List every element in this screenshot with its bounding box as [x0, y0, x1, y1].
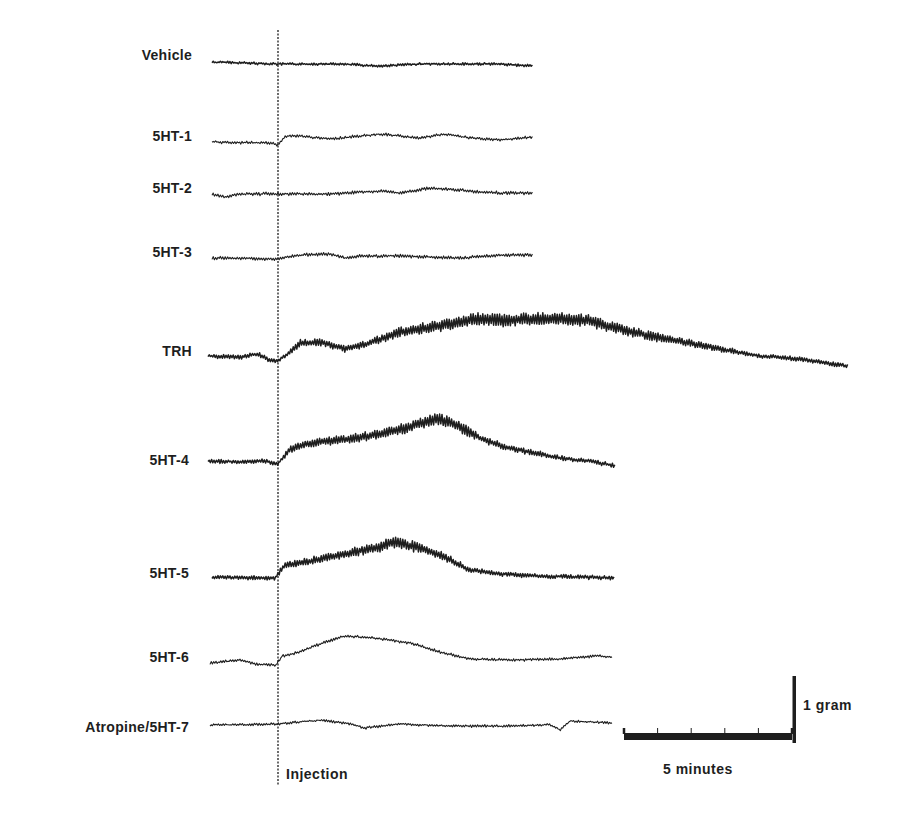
time-scale-bar [624, 733, 792, 740]
injection-label: Injection [286, 766, 348, 782]
time-scale-label: 5 minutes [663, 761, 733, 777]
trace-trh [208, 313, 848, 368]
trace-5ht-6 [210, 635, 612, 666]
trace-label: Vehicle [142, 47, 192, 63]
trace-label: 5HT-1 [152, 128, 192, 144]
trace-vehicle [212, 61, 532, 67]
force-scale-label: 1 gram [803, 697, 852, 713]
trace-5ht-4 [208, 414, 615, 467]
trace-group [208, 61, 848, 730]
trace-label: 5HT-5 [149, 565, 189, 581]
trace-5ht-2 [212, 187, 532, 198]
trace-label: TRH [162, 343, 192, 359]
trace-label: Atropine/5HT-7 [85, 719, 189, 735]
trace-label: 5HT-3 [152, 244, 192, 260]
force-scale-bar [793, 676, 797, 743]
scale-bars [624, 676, 796, 743]
traces-plot [0, 0, 899, 825]
trace-label: 5HT-4 [149, 452, 189, 468]
trace-atropine-5ht-7 [210, 720, 612, 731]
trace-5ht-1 [212, 133, 532, 146]
trace-label: 5HT-6 [149, 649, 189, 665]
figure: Vehicle5HT-15HT-25HT-3TRH5HT-45HT-55HT-6… [0, 0, 899, 825]
trace-5ht-5 [212, 537, 614, 580]
trace-5ht-3 [212, 253, 532, 261]
trace-label: 5HT-2 [152, 180, 192, 196]
